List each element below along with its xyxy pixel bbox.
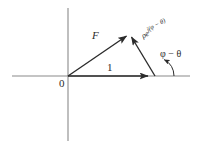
- label-force-vector: F: [92, 30, 99, 41]
- rho-vector-arrow: [132, 37, 156, 76]
- label-origin: 0: [59, 78, 65, 89]
- label-angle: φ − θ: [160, 49, 181, 59]
- angle-arc: [164, 60, 174, 76]
- diagram-canvas: [0, 0, 198, 148]
- force-vector-arrow: [68, 36, 127, 76]
- phasor-diagram-figure: F 1 0 ρej(φ − θ) φ − θ: [0, 0, 198, 148]
- label-unit-vector: 1: [107, 62, 113, 73]
